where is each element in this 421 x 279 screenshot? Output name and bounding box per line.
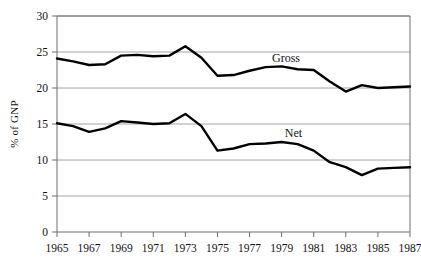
y-tick-label-5: 5 xyxy=(42,190,48,202)
y-tick-label-10: 10 xyxy=(37,154,49,166)
y-axis-ticks: 051015202530 xyxy=(37,10,58,238)
series-annotations-group: GrossNet xyxy=(272,51,303,140)
x-tick-label-1987: 1987 xyxy=(399,242,421,254)
chart-svg: 051015202530 196519671969197119731975197… xyxy=(0,0,421,279)
y-tick-label-20: 20 xyxy=(37,82,49,94)
x-tick-label-1983: 1983 xyxy=(334,242,357,254)
chart-container: % of GNP 051015202530 196519671969197119… xyxy=(0,0,421,279)
x-tick-label-1981: 1981 xyxy=(302,242,325,254)
x-tick-label-1967: 1967 xyxy=(78,242,101,254)
series-label-gross: Gross xyxy=(272,51,300,65)
x-tick-label-1973: 1973 xyxy=(174,242,197,254)
x-axis-ticks: 1965196719691971197319751977197919811983… xyxy=(46,232,421,254)
x-tick-label-1979: 1979 xyxy=(270,242,293,254)
x-tick-label-1965: 1965 xyxy=(46,242,69,254)
y-tick-label-15: 15 xyxy=(37,118,49,130)
series-label-net: Net xyxy=(285,126,303,140)
x-tick-label-1975: 1975 xyxy=(206,242,229,254)
data-lines-group xyxy=(57,46,410,175)
gridlines-group xyxy=(57,16,410,196)
x-tick-label-1969: 1969 xyxy=(110,242,133,254)
x-tick-label-1977: 1977 xyxy=(238,242,261,254)
series-line-net xyxy=(57,114,410,175)
y-tick-label-25: 25 xyxy=(37,46,49,58)
y-tick-label-30: 30 xyxy=(37,10,49,22)
x-tick-label-1985: 1985 xyxy=(366,242,389,254)
y-tick-label-0: 0 xyxy=(42,226,48,238)
x-tick-label-1971: 1971 xyxy=(142,242,165,254)
series-line-gross xyxy=(57,46,410,91)
